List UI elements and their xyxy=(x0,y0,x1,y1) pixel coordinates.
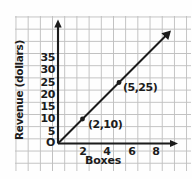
annotation-point-5-25: (5,25) xyxy=(123,82,157,93)
y-tick-label-20: 20 xyxy=(33,89,55,100)
y-tick-label-35: 35 xyxy=(33,52,55,63)
y-tick-label-25: 25 xyxy=(33,77,55,88)
y-tick-label-5: 5 xyxy=(33,126,55,137)
y-tick-label-15: 15 xyxy=(33,101,55,112)
annotation-point-2-10: (2,10) xyxy=(88,119,122,130)
data-point-marker-2-10 xyxy=(80,117,85,122)
graph-image: O 5 10 15 20 25 30 35 2 4 6 8 Revenue (d… xyxy=(0,0,192,179)
x-tick-label-8: 8 xyxy=(149,146,163,157)
y-tick-label-10: 10 xyxy=(33,113,55,124)
y-tick-label-origin: O xyxy=(33,137,55,148)
y-tick-label-30: 30 xyxy=(33,64,55,75)
plot-area xyxy=(0,0,192,179)
data-point-marker-5-25 xyxy=(117,80,122,85)
y-axis-title: Revenue (dollars) xyxy=(13,34,25,146)
x-axis-title: Boxes xyxy=(68,154,138,167)
y-axis xyxy=(54,20,61,144)
